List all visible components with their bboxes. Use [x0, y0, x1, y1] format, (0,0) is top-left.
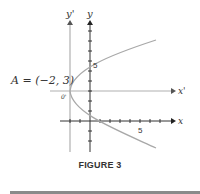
- y-tick-5-label: 5: [93, 61, 98, 70]
- x-prime-arrow-icon: [171, 88, 176, 94]
- x-prime-label: x': [178, 86, 186, 96]
- y-label: y: [86, 8, 93, 19]
- origin-prime-label: 0': [61, 93, 67, 100]
- y-prime-arrow-icon: [67, 20, 73, 25]
- bottom-rule: [10, 191, 200, 194]
- parabola-curve: [70, 40, 156, 148]
- y-prime-label: y': [65, 8, 74, 19]
- x-arrow-icon: [171, 118, 176, 124]
- x-label: x: [178, 116, 183, 126]
- y-arrow-icon: [87, 20, 93, 25]
- figure-caption: FIGURE 3: [0, 160, 200, 170]
- x-tick-5-label: 5: [138, 126, 143, 135]
- point-a-label: A = (−2, 3): [10, 74, 74, 87]
